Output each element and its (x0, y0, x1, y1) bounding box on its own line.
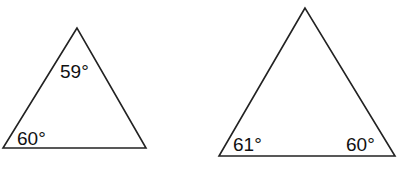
angle-label-right-bottom-right: 60° (346, 134, 375, 155)
triangle-right: 61° 60° (219, 8, 395, 156)
angle-label-right-bottom-left: 61° (233, 134, 262, 155)
angle-label-left-top: 59° (60, 61, 89, 82)
diagram-canvas: 59° 60° 61° 60° (0, 0, 407, 170)
angle-label-left-bottom-left: 60° (17, 128, 46, 149)
triangle-left: 59° 60° (3, 28, 146, 149)
